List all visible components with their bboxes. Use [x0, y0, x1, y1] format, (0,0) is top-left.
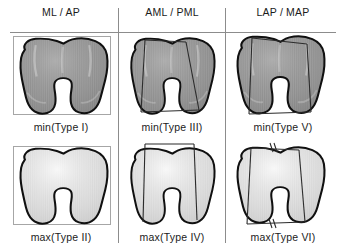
panel-type-6 [238, 143, 325, 228]
column-header-lap-map: LAP / MAP [230, 6, 336, 18]
condyle-shape-type-2 [21, 148, 108, 223]
condyle-shape-type-3 [131, 38, 214, 113]
caption-type-6: max(Type VI) [230, 231, 336, 243]
caption-type-5: min(Type V) [230, 121, 336, 133]
panel-type-4 [131, 144, 214, 224]
panel-type-1 [14, 37, 111, 115]
panel-type-3 [131, 38, 214, 113]
caption-type-1: min(Type I) [8, 121, 114, 133]
caption-type-4: max(Type IV) [122, 231, 222, 243]
caption-type-3: min(Type III) [122, 121, 222, 133]
column-header-ml-ap: ML / AP [8, 6, 114, 18]
panel-type-5 [238, 36, 325, 114]
figure-panel: ML / AP AML / PML LAP / MAP min(Type I) … [0, 0, 344, 250]
condyle-shape-type-1 [21, 38, 108, 113]
column-header-aml-pml: AML / PML [122, 6, 222, 18]
caption-type-2: max(Type II) [8, 231, 114, 243]
panel-type-2 [14, 147, 111, 225]
